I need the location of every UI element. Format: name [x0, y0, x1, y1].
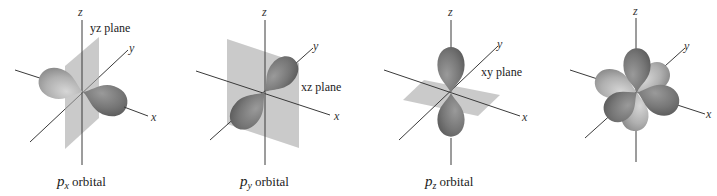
y-axis-label: y [128, 41, 135, 55]
caption-subscript: x [64, 180, 70, 191]
caption-text: orbital [72, 174, 106, 189]
caption-pz: pzorbital [424, 173, 474, 191]
x-axis-front [124, 107, 148, 116]
plane-label: yz plane [90, 21, 130, 35]
caption-py: pyorbital [239, 173, 289, 191]
z-axis-label: z [77, 5, 83, 19]
plane-label: xy plane [481, 65, 522, 79]
panel-py-orbital: z y x xz plane pyorbital [196, 5, 341, 191]
x-axis-label: x [705, 107, 712, 121]
z-axis-label: z [447, 5, 453, 19]
x-axis-label: x [150, 110, 157, 124]
plane-label: xz plane [301, 80, 341, 94]
y-axis-label: y [496, 37, 503, 51]
x-axis-label: x [333, 109, 340, 123]
caption-subscript: y [247, 180, 253, 191]
caption-px: pxorbital [56, 173, 106, 191]
x-axis-label: x [521, 110, 528, 124]
y-axis-label: y [312, 39, 319, 53]
y-axis-label: y [683, 39, 690, 53]
panel-pz-orbital: z y x xy plane pzorbital [384, 5, 528, 191]
caption-text: orbital [255, 174, 289, 189]
panel-px-orbital: z y x yz plane pxorbital [15, 5, 157, 191]
caption-text: orbital [439, 174, 473, 189]
z-axis-label: z [632, 4, 638, 18]
panel-combined-orbitals: z y x [570, 4, 712, 162]
p-orbitals-diagram: z y x yz plane pxorbital z y x xz plane … [0, 0, 717, 196]
caption-subscript: z [432, 180, 437, 191]
z-axis-label: z [261, 5, 267, 19]
